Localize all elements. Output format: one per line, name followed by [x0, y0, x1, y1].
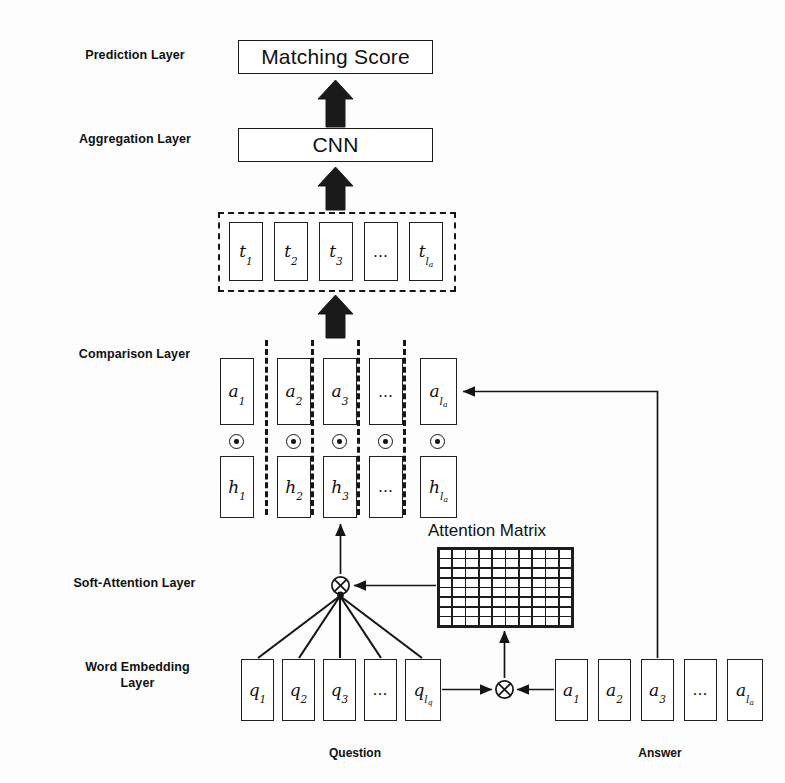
embedding-operator: [494, 679, 515, 700]
layer-label-aggregation: Aggregation Layer: [50, 132, 220, 148]
attention-matrix-cell: [466, 569, 478, 577]
answer-cell-ellipsis-label: …: [693, 681, 709, 699]
hadamard-operator-1: [229, 434, 244, 449]
comparison-separator-1: [265, 340, 268, 515]
t-cell-2-label: t2: [284, 243, 298, 260]
attention-matrix-cell: [466, 608, 478, 616]
attention-matrix-cell: [533, 569, 545, 577]
arrow-cnn-to-matching-score: [318, 80, 353, 127]
answer-cell-last[interactable]: ala: [727, 659, 763, 721]
attention-matrix-cell: [453, 559, 465, 567]
attention-matrix-cell: [453, 608, 465, 616]
attention-matrix-cell: [520, 579, 532, 587]
t-cell-1[interactable]: t1: [229, 222, 263, 281]
attention-matrix-cell: [506, 559, 518, 567]
figure-canvas: Prediction Layer Aggregation Layer Compa…: [0, 0, 785, 783]
answer-cell-1[interactable]: a1: [555, 659, 588, 721]
question-fan-connectors: [258, 592, 422, 658]
hadamard-operator-2: [286, 434, 301, 449]
attention-matrix-cell: [560, 559, 572, 567]
comparison-a-cell-ellipsis[interactable]: …: [369, 358, 403, 425]
t-cell-3-label: t3: [329, 243, 343, 260]
comparison-h-cell-2[interactable]: h2: [277, 456, 311, 518]
attention-matrix[interactable]: [437, 547, 574, 628]
comparison-separator-3: [357, 340, 360, 515]
arrow-representation-to-cnn: [318, 167, 353, 210]
attention-matrix-cell: [560, 608, 572, 616]
comparison-h-cell-3[interactable]: h3: [323, 456, 357, 518]
comparison-a-cell-3-label: a3: [332, 383, 349, 400]
comparison-h-cell-last[interactable]: hla: [420, 456, 457, 518]
attention-matrix-cell: [466, 579, 478, 587]
comparison-a-cell-3[interactable]: a3: [323, 358, 357, 425]
attention-matrix-cell: [453, 617, 465, 625]
attention-matrix-cell: [453, 550, 465, 558]
attention-matrix-cell: [440, 617, 452, 625]
attention-matrix-cell: [453, 569, 465, 577]
t-cell-last[interactable]: tla: [409, 222, 443, 281]
t-cell-ellipsis-label: …: [373, 243, 389, 261]
answer-cell-2-label: a2: [606, 682, 623, 699]
answer-cell-3[interactable]: a3: [641, 659, 674, 721]
attention-matrix-cell: [466, 588, 478, 596]
arrow-comparison-to-representation: [318, 295, 353, 338]
attention-matrix-cell: [453, 598, 465, 606]
attention-matrix-cell: [466, 550, 478, 558]
comparison-h-cell-ellipsis[interactable]: …: [369, 456, 403, 518]
attention-matrix-cell: [440, 579, 452, 587]
question-cell-2[interactable]: q2: [282, 659, 315, 721]
attention-matrix-cell: [560, 598, 572, 606]
cnn-label: CNN: [312, 133, 358, 157]
cnn-box[interactable]: CNN: [238, 128, 433, 162]
answer-cell-2[interactable]: a2: [598, 659, 631, 721]
attention-matrix-cell: [440, 559, 452, 567]
comparison-a-cell-1[interactable]: a1: [220, 358, 254, 425]
soft-attention-operator: [330, 575, 351, 596]
question-cell-last-label: qlq: [413, 682, 432, 699]
answer-cell-ellipsis[interactable]: …: [684, 659, 717, 721]
attention-matrix-cell: [560, 550, 572, 558]
comparison-a-cell-2[interactable]: a2: [277, 358, 311, 425]
question-label: Question: [305, 746, 405, 760]
t-cell-3[interactable]: t3: [319, 222, 353, 281]
attention-matrix-cell: [466, 559, 478, 567]
comparison-h-cell-3-label: h3: [331, 479, 349, 496]
comparison-h-cell-1[interactable]: h1: [220, 456, 254, 518]
question-cell-3[interactable]: q3: [323, 659, 356, 721]
t-cell-1-label: t1: [239, 243, 253, 260]
attention-matrix-cell: [520, 550, 532, 558]
question-cell-ellipsis[interactable]: …: [364, 659, 397, 721]
answer-cell-1-label: a1: [563, 682, 580, 699]
attention-matrix-cell: [533, 608, 545, 616]
attention-matrix-cell: [480, 617, 492, 625]
question-cell-2-label: q2: [290, 682, 308, 699]
attention-matrix-cell: [440, 550, 452, 558]
attention-matrix-cell: [480, 559, 492, 567]
answer-cell-last-label: ala: [736, 682, 754, 699]
matching-score-box[interactable]: Matching Score: [238, 40, 433, 74]
comparison-a-cell-last[interactable]: ala: [420, 358, 457, 425]
layer-label-prediction: Prediction Layer: [55, 48, 215, 64]
question-cell-1[interactable]: q1: [241, 659, 274, 721]
t-cell-ellipsis[interactable]: …: [364, 222, 398, 281]
comparison-separator-4: [403, 340, 406, 515]
attention-matrix-cell: [560, 588, 572, 596]
question-cell-3-label: q3: [331, 682, 349, 699]
attention-matrix-cell: [533, 550, 545, 558]
question-cell-last[interactable]: qlq: [405, 659, 441, 721]
attention-matrix-cell: [480, 579, 492, 587]
t-cell-2[interactable]: t2: [274, 222, 308, 281]
attention-matrix-cell: [546, 608, 558, 616]
attention-matrix-cell: [440, 598, 452, 606]
attention-matrix-cell: [533, 579, 545, 587]
otimes-icon: [330, 575, 351, 596]
attention-matrix-cell: [466, 617, 478, 625]
attention-matrix-cell: [533, 559, 545, 567]
attention-matrix-cell: [520, 569, 532, 577]
t-cell-last-label: tla: [419, 243, 434, 260]
attention-matrix-cell: [546, 598, 558, 606]
attention-matrix-cell: [533, 617, 545, 625]
attention-matrix-cell: [440, 588, 452, 596]
attention-matrix-cell: [453, 579, 465, 587]
attention-matrix-cell: [480, 608, 492, 616]
